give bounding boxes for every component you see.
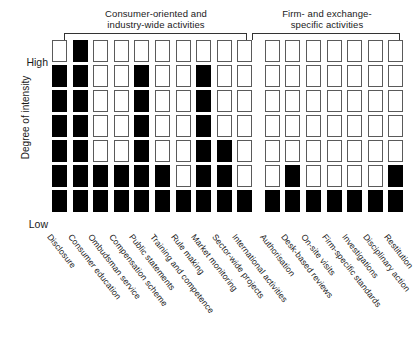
matrix-cell[interactable] <box>73 165 88 187</box>
matrix-cell[interactable] <box>134 90 149 112</box>
matrix-cell[interactable] <box>237 65 252 87</box>
matrix-cell[interactable] <box>52 165 67 187</box>
matrix-cell[interactable] <box>347 90 362 112</box>
matrix-cell[interactable] <box>368 40 383 62</box>
matrix-cell[interactable] <box>217 65 232 87</box>
matrix-cell[interactable] <box>134 65 149 87</box>
matrix-cell[interactable] <box>134 40 149 62</box>
matrix-cell[interactable] <box>388 65 403 87</box>
matrix-cell[interactable] <box>73 40 88 62</box>
matrix-cell[interactable] <box>73 90 88 112</box>
matrix-cell[interactable] <box>93 65 108 87</box>
matrix-cell[interactable] <box>347 140 362 162</box>
matrix-cell[interactable] <box>306 140 321 162</box>
matrix-cell[interactable] <box>327 190 342 212</box>
matrix-cell[interactable] <box>285 140 300 162</box>
matrix-cell[interactable] <box>73 140 88 162</box>
matrix-cell[interactable] <box>368 115 383 137</box>
matrix-cell[interactable] <box>217 190 232 212</box>
matrix-cell[interactable] <box>217 115 232 137</box>
matrix-cell[interactable] <box>388 90 403 112</box>
matrix-cell[interactable] <box>388 40 403 62</box>
matrix-cell[interactable] <box>155 165 170 187</box>
matrix-cell[interactable] <box>114 90 129 112</box>
matrix-cell[interactable] <box>52 115 67 137</box>
matrix-cell[interactable] <box>217 90 232 112</box>
matrix-cell[interactable] <box>327 65 342 87</box>
matrix-cell[interactable] <box>388 140 403 162</box>
matrix-cell[interactable] <box>176 65 191 87</box>
matrix-cell[interactable] <box>114 165 129 187</box>
matrix-cell[interactable] <box>134 190 149 212</box>
matrix-cell[interactable] <box>285 65 300 87</box>
matrix-cell[interactable] <box>265 165 280 187</box>
matrix-cell[interactable] <box>114 40 129 62</box>
matrix-cell[interactable] <box>114 140 129 162</box>
matrix-cell[interactable] <box>176 190 191 212</box>
matrix-cell[interactable] <box>155 140 170 162</box>
matrix-cell[interactable] <box>93 190 108 212</box>
matrix-cell[interactable] <box>327 90 342 112</box>
matrix-cell[interactable] <box>73 65 88 87</box>
matrix-cell[interactable] <box>114 190 129 212</box>
matrix-cell[interactable] <box>196 65 211 87</box>
matrix-cell[interactable] <box>327 140 342 162</box>
matrix-cell[interactable] <box>265 115 280 137</box>
matrix-cell[interactable] <box>347 65 362 87</box>
matrix-cell[interactable] <box>265 140 280 162</box>
matrix-cell[interactable] <box>114 65 129 87</box>
matrix-cell[interactable] <box>196 90 211 112</box>
matrix-cell[interactable] <box>368 140 383 162</box>
matrix-cell[interactable] <box>368 165 383 187</box>
matrix-cell[interactable] <box>73 190 88 212</box>
matrix-cell[interactable] <box>176 40 191 62</box>
matrix-cell[interactable] <box>368 190 383 212</box>
matrix-cell[interactable] <box>155 40 170 62</box>
matrix-cell[interactable] <box>306 115 321 137</box>
matrix-cell[interactable] <box>134 115 149 137</box>
matrix-cell[interactable] <box>265 65 280 87</box>
matrix-cell[interactable] <box>52 40 67 62</box>
matrix-cell[interactable] <box>196 115 211 137</box>
matrix-cell[interactable] <box>347 165 362 187</box>
matrix-cell[interactable] <box>306 165 321 187</box>
matrix-cell[interactable] <box>237 140 252 162</box>
matrix-cell[interactable] <box>265 90 280 112</box>
matrix-cell[interactable] <box>347 115 362 137</box>
matrix-cell[interactable] <box>237 165 252 187</box>
matrix-cell[interactable] <box>73 115 88 137</box>
matrix-cell[interactable] <box>306 190 321 212</box>
matrix-cell[interactable] <box>52 65 67 87</box>
matrix-cell[interactable] <box>196 140 211 162</box>
matrix-cell[interactable] <box>306 65 321 87</box>
matrix-cell[interactable] <box>155 115 170 137</box>
matrix-cell[interactable] <box>93 40 108 62</box>
matrix-cell[interactable] <box>285 190 300 212</box>
matrix-cell[interactable] <box>237 40 252 62</box>
matrix-cell[interactable] <box>93 140 108 162</box>
matrix-cell[interactable] <box>285 40 300 62</box>
matrix-cell[interactable] <box>176 90 191 112</box>
matrix-cell[interactable] <box>327 40 342 62</box>
matrix-cell[interactable] <box>196 40 211 62</box>
matrix-cell[interactable] <box>237 115 252 137</box>
matrix-cell[interactable] <box>52 90 67 112</box>
matrix-cell[interactable] <box>155 90 170 112</box>
matrix-cell[interactable] <box>368 90 383 112</box>
matrix-cell[interactable] <box>388 165 403 187</box>
matrix-cell[interactable] <box>347 40 362 62</box>
matrix-cell[interactable] <box>285 90 300 112</box>
matrix-cell[interactable] <box>155 190 170 212</box>
matrix-cell[interactable] <box>52 140 67 162</box>
matrix-cell[interactable] <box>217 40 232 62</box>
matrix-cell[interactable] <box>196 190 211 212</box>
matrix-cell[interactable] <box>237 90 252 112</box>
matrix-cell[interactable] <box>306 90 321 112</box>
matrix-cell[interactable] <box>388 190 403 212</box>
matrix-cell[interactable] <box>347 190 362 212</box>
matrix-cell[interactable] <box>265 40 280 62</box>
matrix-cell[interactable] <box>176 140 191 162</box>
matrix-cell[interactable] <box>196 165 211 187</box>
matrix-cell[interactable] <box>327 165 342 187</box>
matrix-cell[interactable] <box>93 115 108 137</box>
